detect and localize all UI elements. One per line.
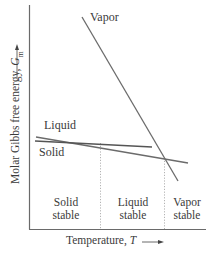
region-solid-line1: Solid (46, 196, 86, 209)
solid-label: Solid (39, 146, 64, 159)
y-axis-subscript: m (16, 51, 25, 57)
vapor-line (82, 17, 178, 181)
x-axis-label: Temperature, T (66, 234, 136, 246)
region-liquid-line1: Liquid (111, 196, 155, 209)
region-vapor-line2: stable (166, 209, 206, 222)
region-liquid-line2: stable (111, 209, 155, 222)
region-solid-line2: stable (46, 209, 86, 222)
y-axis-symbol: G (9, 58, 21, 66)
region-vapor-stable: Vapor stable (166, 196, 206, 222)
x-axis-label-text: Temperature, (66, 234, 130, 246)
x-arrow-head-icon (158, 240, 164, 244)
region-solid-stable: Solid stable (46, 196, 86, 222)
x-axis-symbol: T (130, 234, 136, 246)
region-liquid-stable: Liquid stable (111, 196, 155, 222)
y-axis-label-text: Molar Gibbs free energy, (9, 66, 21, 184)
region-vapor-line1: Vapor (166, 196, 206, 209)
vapor-label: Vapor (90, 11, 119, 24)
liquid-label: Liquid (44, 119, 76, 132)
y-axis-label: Molar Gibbs free energy, Gm (9, 13, 24, 223)
